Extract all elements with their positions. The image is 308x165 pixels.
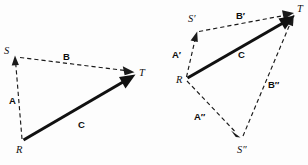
right-vector-A-double-prime-arrow <box>187 81 241 138</box>
left-vector-C-shaft <box>24 82 124 140</box>
left-vector-C-arrow <box>24 75 136 141</box>
right-vector-A-double-prime-shaft <box>187 81 235 131</box>
left-vector-label-B: B <box>63 51 70 62</box>
left-vector-B-shaft <box>20 58 125 71</box>
right-diagram: S′ R S″ T A′ B′ A″ B″ C <box>172 3 304 155</box>
left-vector-B-arrow <box>20 58 135 76</box>
right-vector-A-prime-arrowhead <box>191 32 198 42</box>
right-vector-label-B-prime: B′ <box>236 10 246 21</box>
right-point-label-R: R <box>175 74 183 85</box>
right-vector-label-A-prime: A′ <box>172 49 182 60</box>
left-vector-A-arrowhead <box>12 56 19 66</box>
right-vector-C-arrow <box>188 16 296 79</box>
right-point-label-S-double-prime: S″ <box>237 144 247 155</box>
figure-root: S R T A B C <box>0 0 308 165</box>
left-vector-A-shaft <box>16 62 22 139</box>
right-vector-A-prime-arrow <box>187 32 198 78</box>
left-diagram: S R T A B C <box>4 45 146 155</box>
left-vector-B-arrowhead <box>123 66 135 75</box>
right-point-label-S-prime: S′ <box>188 13 196 24</box>
left-point-label-S: S <box>4 45 10 56</box>
left-vector-label-C: C <box>78 119 85 130</box>
right-vector-label-C: C <box>238 49 245 60</box>
right-vector-A-double-prime-arrowhead <box>231 131 241 138</box>
right-vector-label-A-double-prime: A″ <box>194 111 206 122</box>
left-point-label-R: R <box>15 144 23 155</box>
right-vector-B-prime-arrow <box>199 10 294 31</box>
right-point-label-T: T <box>297 3 304 14</box>
right-vector-A-prime-shaft <box>187 39 196 77</box>
vector-diagram-canvas: S R T A B C <box>0 0 308 165</box>
left-vector-label-A: A <box>9 95 16 106</box>
right-vector-label-B-double-prime: B″ <box>268 79 280 90</box>
left-point-label-T: T <box>139 67 146 78</box>
